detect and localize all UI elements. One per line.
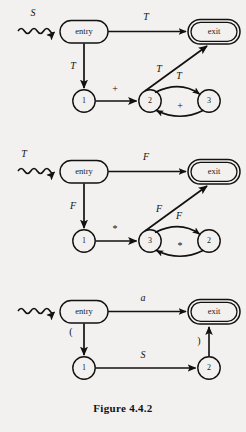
edge-entry-exit-1-label: T [143,11,150,22]
node-entry-1-label: entry [75,26,93,36]
node-1-3-label: 1 [82,363,86,372]
edge-n2-exit-1 [145,46,207,91]
edge-n2-n3-1 [155,87,200,94]
start-label-1: S [31,7,36,18]
edge-n1-n2-1-label: + [112,83,118,94]
figure-caption: Figure 4.4.2 [93,402,153,414]
edge-n3-exit-2-label: F [155,203,163,214]
node-1-2-label: 1 [82,236,86,245]
node-3-2-label: 3 [148,236,152,245]
node-exit-2-label: exit [208,166,221,176]
start-wavy-arrow-1 [18,29,54,34]
node-entry-3-label: entry [75,306,93,316]
diagram-1: S entry exit T T 1 + 2 [18,7,240,116]
diagram-2: T entry exit F F 1 * 3 2 F [18,148,240,256]
node-exit-1[interactable]: exit [188,20,240,45]
start-wavy-arrow-2 [18,169,54,174]
edge-n2-n3-2-label: * [178,240,183,251]
node-1-1[interactable]: 1 [73,90,95,112]
edge-n2-n3-1-label: T [176,70,183,81]
node-1-1-label: 1 [82,96,86,105]
edge-n3-n2-1-label: + [177,100,183,111]
node-entry-1[interactable]: entry [60,21,108,44]
node-exit-3[interactable]: exit [188,300,240,325]
edge-n2-n3-2 [157,251,204,257]
edge-entry-exit-3-label: a [141,292,146,303]
edge-n1-n3-2-label: * [113,223,118,234]
edge-n3-exit-2 [145,186,207,231]
node-exit-1-label: exit [208,26,221,36]
edge-entry-n1-3-label: ( [69,326,73,338]
edge-n3-n2-2-label: F [175,210,183,221]
node-3-2[interactable]: 3 [139,230,161,252]
node-1-2[interactable]: 1 [73,230,95,252]
node-2-3-label: 2 [207,363,211,372]
node-entry-2-label: entry [75,166,93,176]
edge-n2-exit-1-label: T [156,63,163,74]
edge-n2-exit-3-label: ) [197,335,200,347]
node-2-1[interactable]: 2 [139,90,161,112]
node-3-1[interactable]: 3 [198,90,220,112]
node-2-2[interactable]: 2 [198,230,220,252]
node-3-1-label: 3 [207,96,211,105]
node-2-3[interactable]: 2 [198,357,220,379]
start-label-2: T [21,148,28,159]
node-entry-3[interactable]: entry [60,301,108,324]
figure-container: S entry exit T T 1 + 2 [0,0,246,432]
node-exit-3-label: exit [208,306,221,316]
edge-entry-n1-1-label: T [70,60,77,71]
edge-entry-exit-2-label: F [142,151,150,162]
edge-n1-n2-3-label: S [141,349,146,360]
edge-entry-n1-2-label: F [69,200,77,211]
node-2-1-label: 2 [148,96,152,105]
figure-4-4-2-svg: S entry exit T T 1 + 2 [0,0,246,432]
start-wavy-arrow-3 [18,309,54,314]
edge-n3-n2-2 [155,227,200,234]
node-entry-2[interactable]: entry [60,161,108,184]
diagram-3: entry exit a ( 1 2 S ) [18,292,240,379]
node-1-3[interactable]: 1 [73,357,95,379]
edge-n3-n2-1 [157,111,204,117]
node-2-2-label: 2 [207,236,211,245]
node-exit-2[interactable]: exit [188,160,240,185]
